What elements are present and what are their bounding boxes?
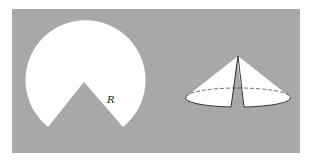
sector-to-cone-diagram: R — [0, 0, 309, 160]
radius-label: R — [106, 94, 115, 105]
